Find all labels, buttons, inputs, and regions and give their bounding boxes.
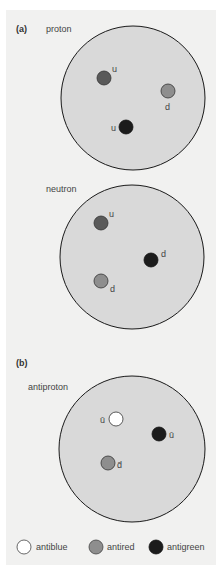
panel-b-label: (b) xyxy=(16,358,28,368)
antiproton-circle xyxy=(59,376,205,522)
proton-circle xyxy=(61,26,205,170)
neutron-quark-u-label: u xyxy=(109,209,114,219)
neutron-quark-d1-label: d xyxy=(161,249,166,259)
antiproton-quark-antiu2-label: ū xyxy=(169,430,174,440)
neutron-label: neutron xyxy=(46,184,77,194)
neutron-quark-d1 xyxy=(144,253,158,267)
proton-quark-d xyxy=(161,84,175,98)
proton-diagram: u d u xyxy=(61,26,205,170)
legend-antired-label: antired xyxy=(107,542,135,552)
legend: antiblue antired antigreen xyxy=(17,540,205,554)
antiproton-quark-antiu2 xyxy=(152,427,166,441)
neutron-circle xyxy=(60,185,204,329)
panel-a-label: (a) xyxy=(16,24,27,34)
proton-quark-u1 xyxy=(97,71,111,85)
antiproton-label: antiproton xyxy=(28,382,68,392)
legend-antigreen-label: antigreen xyxy=(167,542,205,552)
antiproton-quark-antid-label: d̄ xyxy=(117,460,122,470)
proton-quark-u1-label: u xyxy=(112,64,117,74)
neutron-quark-d2-label: d xyxy=(110,284,115,294)
proton-quark-u2-label: u xyxy=(111,123,116,133)
antiblue-swatch-icon xyxy=(17,540,31,554)
antired-swatch-icon xyxy=(89,540,103,554)
antiproton-quark-antiu1-label: ū xyxy=(100,415,105,425)
proton-quark-d-label: d xyxy=(165,102,170,112)
neutron-quark-d2 xyxy=(94,274,108,288)
proton-quark-u2 xyxy=(119,120,133,134)
neutron-quark-u xyxy=(94,216,108,230)
antigreen-swatch-icon xyxy=(149,540,163,554)
proton-label: proton xyxy=(46,24,72,34)
antiproton-quark-antid xyxy=(101,456,115,470)
antiproton-quark-antiu1 xyxy=(109,412,123,426)
neutron-diagram: u d d xyxy=(60,185,204,329)
antiproton-diagram: ū ū d̄ xyxy=(59,376,205,522)
legend-antiblue-label: antiblue xyxy=(36,542,68,552)
quark-diagram: (a) proton u d u neutron u d d (b) antip… xyxy=(0,0,222,571)
